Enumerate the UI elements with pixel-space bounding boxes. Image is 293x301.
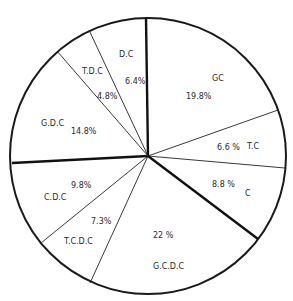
slice-label-tdc: T.D.C bbox=[81, 67, 103, 76]
slice-pct-gdc: 14.8% bbox=[71, 127, 97, 136]
boundary-dc-gc bbox=[146, 18, 148, 156]
slice-label-gc: GC bbox=[212, 74, 224, 83]
slice-pct-c: 8.8 % bbox=[212, 180, 235, 189]
boundary-c-gcdc bbox=[148, 156, 258, 239]
slice-label-gdc: G.D.C bbox=[41, 119, 64, 128]
slice-pct-tcdc: 7.3% bbox=[91, 217, 112, 226]
slice-label-c: C bbox=[245, 189, 251, 198]
slice-label-cdc: C.D.C bbox=[44, 193, 67, 202]
boundary-cdc-gdc bbox=[12, 156, 148, 163]
slice-pct-gcdc: 22 % bbox=[153, 231, 174, 240]
slice-label-tcdc: T.C.D.C bbox=[63, 237, 93, 246]
slice-pct-tdc: 4.8% bbox=[97, 92, 118, 101]
slice-pct-tc: 6.6 % bbox=[217, 143, 240, 152]
pie-chart: GC 19.8% 6.6 % T.C 8.8 % C 22 % G.C.D.C … bbox=[0, 0, 293, 301]
boundary-tc-c bbox=[148, 156, 285, 168]
slice-pct-gc: 19.8% bbox=[186, 92, 212, 101]
slice-pct-cdc: 9.8% bbox=[71, 181, 92, 190]
slice-label-gcdc: G.C.D.C bbox=[153, 262, 185, 271]
slice-label-dc: D.C bbox=[119, 50, 134, 59]
slice-label-tc: T.C bbox=[246, 142, 259, 151]
slice-pct-dc: 6.4% bbox=[125, 77, 146, 86]
